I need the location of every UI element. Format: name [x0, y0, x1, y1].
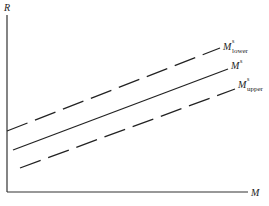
- money-supply-diagram: R M M s lower M s M s upper: [0, 0, 269, 206]
- svg-text:lower: lower: [232, 47, 249, 55]
- svg-text:M: M: [230, 60, 240, 71]
- money-supply-line: [13, 69, 228, 150]
- y-axis-label: R: [3, 2, 10, 13]
- svg-text:M: M: [222, 41, 232, 52]
- svg-text:upper: upper: [247, 85, 264, 93]
- svg-text:s: s: [232, 38, 235, 44]
- label-money-supply-lower: M s lower: [222, 38, 249, 55]
- svg-text:M: M: [237, 79, 247, 90]
- svg-text:s: s: [247, 76, 250, 82]
- x-axis-label: M: [250, 187, 260, 198]
- money-supply-upper-line: [20, 89, 235, 168]
- label-money-supply-upper: M s upper: [237, 76, 264, 93]
- money-supply-lower-line: [7, 48, 220, 131]
- svg-text:s: s: [240, 58, 243, 64]
- label-money-supply: M s: [230, 58, 243, 71]
